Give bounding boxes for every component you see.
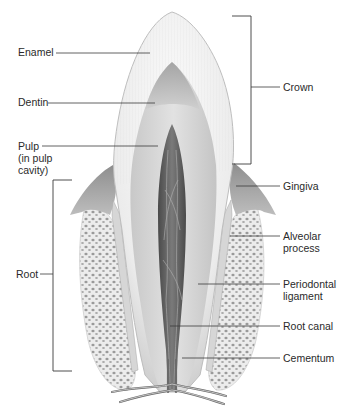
label-periodontal-ligament-line-2: ligament [283,290,336,302]
label-crown: Crown [283,81,313,93]
label-root: Root [16,268,38,280]
label-alveolar-process-line-2: process [283,242,321,254]
root-bracket [53,180,72,371]
label-cementum: Cementum [283,352,334,364]
crown-bracket [232,16,251,164]
label-pulp-line-2: (in pulp [18,152,52,164]
label-pulp-line-3: cavity) [18,164,52,176]
label-periodontal-ligament: Periodontal ligament [283,278,336,302]
label-dentin: Dentin [18,96,48,108]
label-enamel: Enamel [18,46,54,58]
label-root-canal: Root canal [283,320,333,332]
label-pulp: Pulp (in pulp cavity) [18,140,52,176]
gingiva-left [70,165,116,215]
label-gingiva: Gingiva [283,180,319,192]
label-alveolar-process-line-1: Alveolar [283,230,321,242]
label-alveolar-process: Alveolar process [283,230,321,254]
gingiva-right [230,163,276,215]
label-pulp-line-1: Pulp [18,140,52,152]
tooth-diagram: Enamel Dentin Pulp (in pulp cavity) Root… [0,0,344,415]
label-periodontal-ligament-line-1: Periodontal [283,278,336,290]
